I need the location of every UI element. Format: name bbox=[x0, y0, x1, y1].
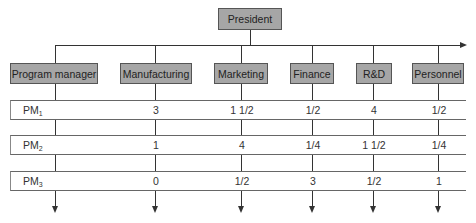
cell-rd: 4 bbox=[371, 104, 377, 116]
dept-label: R&D bbox=[363, 68, 385, 80]
president-box: President bbox=[218, 8, 282, 30]
pm-row-1: PM1 3 1 1/2 1/2 4 1/2 bbox=[10, 100, 466, 120]
pm-row-3: PM3 0 1/2 3 1/2 1 bbox=[10, 171, 466, 191]
cell-manufacturing: 1 bbox=[153, 139, 159, 151]
drop-line bbox=[241, 45, 242, 63]
dept-box-personnel: Personnel bbox=[412, 63, 464, 84]
cell-finance: 1/4 bbox=[306, 139, 321, 151]
arrow-down-icon bbox=[152, 206, 158, 213]
arrow-down-icon bbox=[435, 206, 441, 213]
arrow-down-icon bbox=[52, 206, 58, 213]
cell-rd: 1 1/2 bbox=[362, 139, 385, 151]
arrow-right-icon bbox=[460, 42, 467, 48]
dept-box-finance: Finance bbox=[290, 63, 334, 84]
drop-line bbox=[312, 45, 313, 63]
cell-marketing: 4 bbox=[239, 139, 245, 151]
dept-label: Manufacturing bbox=[123, 68, 190, 80]
dept-label: Personnel bbox=[414, 68, 461, 80]
cell-manufacturing: 3 bbox=[153, 104, 159, 116]
cell-finance: 3 bbox=[310, 175, 316, 187]
dept-box-program-manager: Program manager bbox=[10, 63, 98, 84]
cell-rd: 1/2 bbox=[367, 175, 382, 187]
dept-label: Finance bbox=[293, 68, 330, 80]
pm-row-2: PM2 1 4 1/4 1 1/2 1/4 bbox=[10, 135, 466, 155]
row-label: PM3 bbox=[23, 175, 43, 188]
drop-line bbox=[55, 45, 56, 63]
dept-box-manufacturing: Manufacturing bbox=[120, 63, 192, 84]
drop-line bbox=[373, 45, 374, 63]
cell-finance: 1/2 bbox=[306, 104, 321, 116]
cell-personnel: 1 bbox=[436, 175, 442, 187]
cell-marketing: 1/2 bbox=[235, 175, 250, 187]
dept-box-marketing: Marketing bbox=[214, 63, 268, 84]
row-label: PM1 bbox=[23, 104, 43, 117]
dept-box-rd: R&D bbox=[356, 63, 392, 84]
cell-personnel: 1/2 bbox=[432, 104, 447, 116]
cell-personnel: 1/4 bbox=[432, 139, 447, 151]
arrow-down-icon bbox=[238, 206, 244, 213]
drop-line bbox=[155, 45, 156, 63]
row-label: PM2 bbox=[23, 139, 43, 152]
arrow-down-icon bbox=[309, 206, 315, 213]
arrow-down-icon bbox=[370, 206, 376, 213]
cell-manufacturing: 0 bbox=[153, 175, 159, 187]
horizontal-bus-line bbox=[55, 45, 461, 46]
president-label: President bbox=[228, 13, 272, 25]
dept-label: Marketing bbox=[218, 68, 264, 80]
cell-marketing: 1 1/2 bbox=[230, 104, 253, 116]
drop-line bbox=[438, 45, 439, 63]
president-connector bbox=[250, 30, 251, 45]
dept-label: Program manager bbox=[12, 68, 97, 80]
